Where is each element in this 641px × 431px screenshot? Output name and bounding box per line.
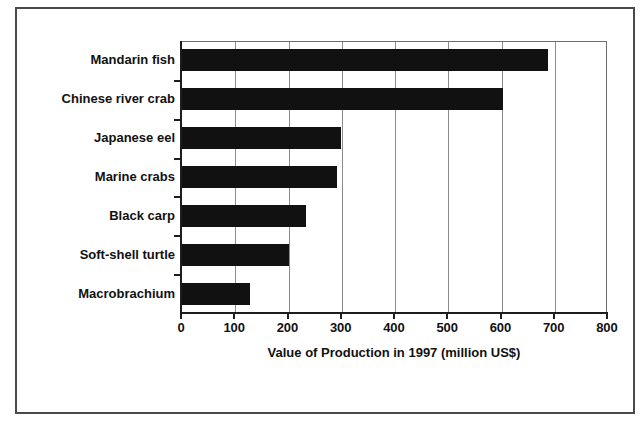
x-axis-tick-label: 700: [524, 320, 584, 335]
x-axis-tick-label: 600: [471, 320, 531, 335]
bar: [181, 244, 289, 266]
gridline-400: [395, 42, 396, 312]
x-axis-tick-label: 300: [311, 320, 371, 335]
x-axis-tick-label: 400: [364, 320, 424, 335]
category-label: Macrobrachium: [20, 287, 175, 301]
category-label: Chinese river crab: [20, 92, 175, 106]
category-label: Black carp: [20, 209, 175, 223]
x-axis-tick-label: 800: [577, 320, 637, 335]
x-axis-line: [181, 312, 608, 314]
x-axis-tick-label: 100: [204, 320, 264, 335]
category-label: Mandarin fish: [20, 53, 175, 67]
figure-container: Mandarin fishChinese river crabJapanese …: [0, 0, 641, 431]
category-label: Soft-shell turtle: [20, 248, 175, 262]
gridline-700: [555, 42, 556, 312]
bar: [181, 283, 250, 305]
bar: [181, 88, 503, 110]
gridline-500: [448, 42, 449, 312]
x-axis-title: Value of Production in 1997 (million US$…: [181, 345, 607, 360]
bar: [181, 49, 548, 71]
gridline-300: [342, 42, 343, 312]
x-axis-tick-label: 500: [417, 320, 477, 335]
gridline-600: [502, 42, 503, 312]
x-axis-tick-label: 0: [151, 320, 211, 335]
bar: [181, 127, 341, 149]
bar: [181, 205, 306, 227]
bar: [181, 166, 337, 188]
y-axis-line: [180, 41, 182, 314]
x-axis-tick-label: 200: [258, 320, 318, 335]
category-label: Marine crabs: [20, 170, 175, 184]
category-label: Japanese eel: [20, 131, 175, 145]
